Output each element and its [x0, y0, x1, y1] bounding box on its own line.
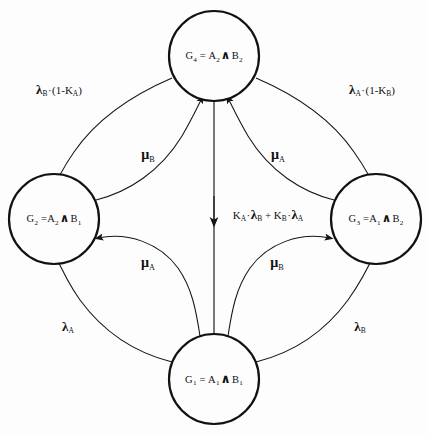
edge-label-g4-to-g3: λA·(1-KB) [349, 82, 395, 98]
edge-path-g1-to-g2-inner [98, 236, 200, 336]
edge-label-g3-to-g4: μA [271, 146, 285, 163]
edge-label-g1-to-g2-outer: λA [62, 319, 74, 335]
edge-path-g1-to-g3-inner [228, 236, 330, 336]
node-label-g1: G1 = A1∧B1 [185, 371, 243, 387]
edge-label-g1-to-g3-inner: μB [270, 254, 283, 271]
edge-label-g2-to-g4: μB [141, 146, 154, 163]
node-label-g2: G2 =A2∧B1 [27, 211, 82, 226]
node-label-g4: G4 = A2∧B2 [185, 48, 242, 63]
state-transition-diagram: G4 = A2∧B2 G2 =A2∧B1 G3 =A1∧B2 G1 = A1∧B… [0, 0, 429, 434]
edge-label-g4-to-g2: λB·(1-KA) [36, 82, 82, 98]
edge-label-g4-to-g1: KA·λB + KB·λA [233, 207, 304, 223]
edge-label-g1-to-g2-inner: μA [141, 254, 155, 271]
node-label-g3: G3 =A1∧B2 [349, 211, 404, 226]
edge-label-g1-to-g3-outer: λB [354, 319, 365, 335]
